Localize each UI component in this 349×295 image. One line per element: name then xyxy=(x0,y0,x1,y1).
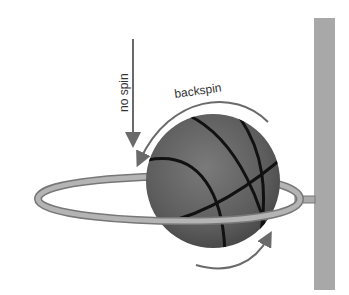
no-spin-label: no spin xyxy=(117,73,131,112)
backspin-diagram: no spin backspin xyxy=(0,0,349,295)
backspin-label: backspin xyxy=(173,81,222,101)
backboard xyxy=(314,18,335,290)
basketball xyxy=(146,114,280,260)
